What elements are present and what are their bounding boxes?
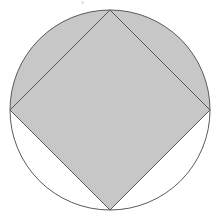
figure-canvas bbox=[0, 0, 221, 218]
geometry-figure bbox=[0, 0, 221, 218]
scan-speck bbox=[81, 1, 84, 4]
